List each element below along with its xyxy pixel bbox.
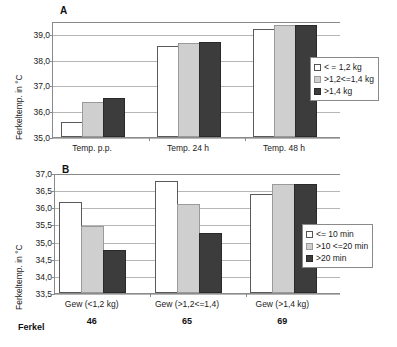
- x-tick-label: Temp. p.p.: [72, 143, 112, 153]
- legend-label: >20 min: [316, 254, 346, 263]
- bar: [103, 250, 126, 293]
- legend-item[interactable]: <= 10 min: [306, 228, 368, 240]
- y-tick-label: 39,0: [33, 31, 50, 40]
- bar: [155, 181, 178, 293]
- x-tick-label: Temp. 24 h: [167, 143, 209, 153]
- x-tick-label: Gew (<1,2 kg): [65, 299, 119, 309]
- y-tick-label: 33,5: [35, 290, 52, 299]
- bar-group: [58, 174, 127, 293]
- legend-swatch-icon: [314, 88, 321, 95]
- gridline: [53, 138, 340, 139]
- chart-panel-b: B Ferkeltemp. in °C 33,534,034,535,035,5…: [0, 160, 397, 347]
- chart-panel-a: A Ferkeltemp. in °C 35,036,037,038,039,0…: [0, 0, 397, 168]
- bar: [250, 194, 273, 293]
- panel-b-legend: <= 10 min>10 <=20 min>20 min: [302, 224, 373, 268]
- bar: [61, 122, 83, 137]
- legend-swatch-icon: [314, 76, 321, 83]
- y-tick-label: 37,0: [35, 170, 52, 179]
- bar-group: [60, 22, 126, 137]
- panel-b-plot-area: 33,534,034,535,035,536,036,537,0: [54, 174, 340, 294]
- bar: [177, 204, 200, 293]
- footer-row-value: 69: [277, 316, 287, 326]
- y-tick-label: 35,5: [35, 221, 52, 230]
- y-tick-label: 36,5: [35, 187, 52, 196]
- bar: [157, 46, 179, 138]
- y-tick-label: 38,0: [33, 56, 50, 65]
- footer-row-label: Ferkel: [18, 322, 45, 332]
- bar: [199, 233, 222, 293]
- x-tick-mark: [246, 294, 247, 297]
- legend-item[interactable]: >1,4 kg: [314, 85, 374, 97]
- panel-b-y-axis-label: Ferkeltemp. in °C: [14, 244, 24, 310]
- y-tick-label: 35,0: [33, 134, 50, 143]
- legend-label: >1,2<=1,4 kg: [324, 75, 374, 84]
- legend-label: >10 <=20 min: [316, 242, 368, 251]
- legend-item[interactable]: >1,2<=1,4 kg: [314, 73, 374, 85]
- legend-label: <= 10 min: [316, 230, 354, 239]
- x-tick-label: Gew (>1,4 kg): [256, 299, 310, 309]
- x-tick-label: Gew (>1,2<=1,4): [155, 299, 219, 309]
- y-tick-label: 34,0: [35, 273, 52, 282]
- bar-group: [156, 22, 222, 137]
- legend-swatch-icon: [306, 243, 313, 250]
- legend-item[interactable]: < = 1,2 kg: [314, 61, 374, 73]
- legend-label: < = 1,2 kg: [324, 63, 362, 72]
- bar: [274, 25, 296, 137]
- bar: [199, 42, 221, 137]
- x-tick-mark: [150, 294, 151, 297]
- legend-label: >1,4 kg: [324, 87, 352, 96]
- footer-row-value: 65: [182, 316, 192, 326]
- bar: [82, 102, 104, 137]
- footer-row-value: 46: [87, 316, 97, 326]
- bar: [59, 202, 82, 293]
- bar: [253, 29, 275, 137]
- legend-swatch-icon: [306, 231, 313, 238]
- panel-a-y-axis-label: Ferkeltemp. in °C: [14, 74, 24, 140]
- gridline: [55, 294, 340, 295]
- bar: [272, 184, 295, 293]
- y-tick-label: 36,0: [35, 204, 52, 213]
- x-tick-label: Temp. 48 h: [263, 143, 305, 153]
- x-tick-mark: [149, 138, 150, 141]
- bar-group: [154, 174, 223, 293]
- x-tick-mark: [245, 138, 246, 141]
- bar: [81, 226, 104, 293]
- bar: [103, 98, 125, 137]
- panel-a-legend: < = 1,2 kg>1,2<=1,4 kg>1,4 kg: [310, 57, 379, 101]
- legend-swatch-icon: [314, 64, 321, 71]
- y-tick-label: 34,5: [35, 255, 52, 264]
- legend-swatch-icon: [306, 255, 313, 262]
- y-tick-label: 37,0: [33, 82, 50, 91]
- legend-item[interactable]: >10 <=20 min: [306, 240, 368, 252]
- bar-group: [252, 22, 318, 137]
- panel-a-plot-area: 35,036,037,038,039,0: [52, 22, 340, 138]
- panel-a-letter: A: [60, 5, 67, 16]
- y-tick-label: 36,0: [33, 108, 50, 117]
- legend-item[interactable]: >20 min: [306, 252, 368, 264]
- bar: [178, 43, 200, 137]
- y-tick-label: 35,0: [35, 238, 52, 247]
